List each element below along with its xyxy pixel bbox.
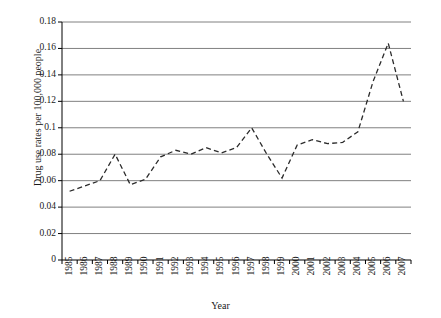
chart-figure: Drug use rates per 100,000 people Year 0…: [0, 0, 441, 318]
x-tick-label: 2003: [337, 257, 347, 276]
x-tick-label: 1991: [155, 257, 165, 276]
x-tick-label: 1988: [110, 257, 120, 276]
y-tick-label: 0.14: [39, 70, 56, 80]
x-tick-label: 2006: [383, 257, 393, 276]
x-tick-label: 1999: [277, 257, 287, 276]
x-tick-label: 2005: [368, 257, 378, 276]
x-tick-label: 2004: [352, 257, 362, 276]
x-axis-label: Year: [0, 300, 441, 311]
y-axis-ticks: [58, 22, 62, 260]
data-series-line: [70, 43, 404, 191]
x-tick-label: 1990: [140, 257, 150, 276]
x-tick-label: 2002: [322, 257, 332, 276]
y-axis-label: Drug use rates per 100,000 people: [32, 43, 43, 193]
x-tick-label: 1992: [170, 257, 180, 276]
y-tick-label: 0.08: [39, 149, 56, 159]
x-tick-label: 1994: [201, 257, 211, 276]
x-tick-label: 1989: [125, 257, 135, 276]
x-tick-label: 1998: [261, 257, 271, 276]
x-tick-label: 1997: [246, 257, 256, 276]
x-tick-label: 1993: [185, 257, 195, 276]
x-tick-label: 2000: [292, 257, 302, 276]
y-tick-label: 0.18: [39, 17, 56, 27]
y-tick-label: 0.06: [39, 176, 56, 186]
x-tick-label: 2001: [307, 257, 317, 276]
x-tick-label: 1996: [231, 257, 241, 276]
y-tick-label: 0.16: [39, 43, 56, 53]
y-tick-label: 0.04: [39, 202, 56, 212]
y-tick-label: 0: [51, 255, 56, 265]
y-tick-label: 0.12: [39, 96, 56, 106]
axes: [62, 22, 411, 260]
x-tick-label: 2007: [398, 257, 408, 276]
y-tick-label: 0.1: [44, 123, 56, 133]
x-tick-label: 1987: [94, 257, 104, 276]
y-tick-label: 0.02: [39, 229, 56, 239]
x-tick-label: 1985: [64, 257, 74, 276]
x-tick-label: 1995: [216, 257, 226, 276]
x-tick-label: 1986: [79, 257, 89, 276]
